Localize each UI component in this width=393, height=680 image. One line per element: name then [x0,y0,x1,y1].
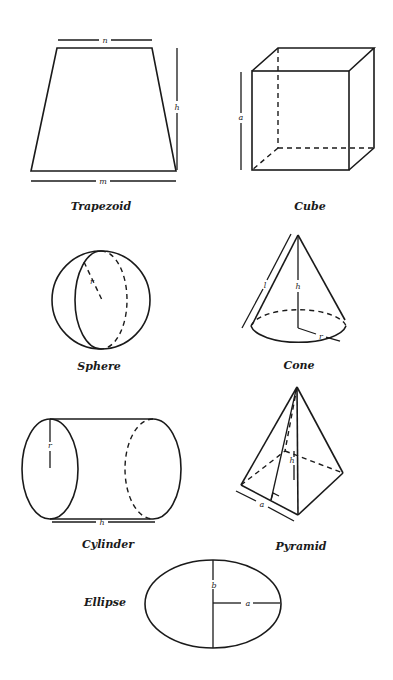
geometric-shapes-diagram: n h m Trapezoid a Cube r Sphere [0,0,393,680]
pyramid-a-dimension-line-right [268,507,294,521]
cube-front-face [252,71,349,170]
cone-right-slant [298,235,345,320]
cone-h-label: h [295,282,300,291]
trapezoid-h-label: h [174,103,179,112]
pyramid-figure: h a Pyramid [236,387,343,553]
cylinder-figure: r h Cylinder [22,419,181,551]
trapezoid-figure: n h m Trapezoid [31,36,180,213]
trapezoid-m-label: m [99,177,107,186]
cone-l-label: l [264,281,267,290]
ellipse-figure: b a Ellipse [83,560,281,648]
cylinder-r-label: r [48,441,53,450]
cube-top-face [252,48,374,71]
sphere-meridian-front [75,251,101,349]
cube-a-label: a [239,113,244,122]
ellipse-caption: Ellipse [83,596,126,609]
pyramid-base-front-right [298,473,343,515]
ellipse-a-label: a [246,599,251,608]
pyramid-slant-height-line [271,390,296,500]
trapezoid-caption: Trapezoid [71,200,132,213]
trapezoid-outline [31,48,176,171]
sphere-outline [52,251,150,349]
pyramid-h-label: h [289,456,294,465]
cube-figure: a Cube [239,48,374,213]
ellipse-b-label: b [211,581,216,590]
cube-right-face [349,48,374,170]
pyramid-right-edge [297,387,343,473]
cylinder-right-end-hidden [125,419,153,519]
cylinder-caption: Cylinder [82,538,135,551]
cone-radius-line-left [298,328,316,334]
sphere-r-label: r [90,277,95,286]
cone-figure: h r l Cone [242,234,346,372]
pyramid-a-label: a [260,500,265,509]
cylinder-h-label: h [99,518,104,527]
cone-caption: Cone [283,359,314,372]
cube-caption: Cube [294,200,325,213]
cylinder-right-end-visible [153,419,181,519]
sphere-caption: Sphere [77,360,120,373]
trapezoid-n-label: n [102,36,107,45]
pyramid-right-angle-mark [271,493,279,500]
pyramid-a-dimension-line-left [236,491,256,501]
sphere-figure: r Sphere [52,251,150,373]
pyramid-front-edge [297,387,298,515]
sphere-meridian-back [101,251,127,349]
pyramid-caption: Pyramid [274,540,326,553]
pyramid-base-front-left [241,485,298,515]
pyramid-left-edge [241,387,297,485]
cube-hidden-edge-depth [252,148,278,170]
